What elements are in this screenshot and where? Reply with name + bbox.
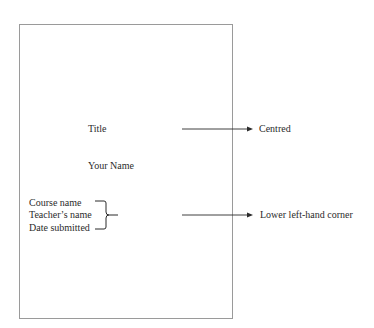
arrow-head-icon bbox=[247, 213, 253, 218]
lower-left-annotation: Lower left-hand corner bbox=[260, 209, 353, 221]
arrow-head-icon bbox=[247, 127, 253, 132]
curly-brace-icon bbox=[95, 201, 118, 229]
centred-annotation: Centred bbox=[259, 123, 291, 135]
diagram-lines bbox=[0, 0, 374, 328]
